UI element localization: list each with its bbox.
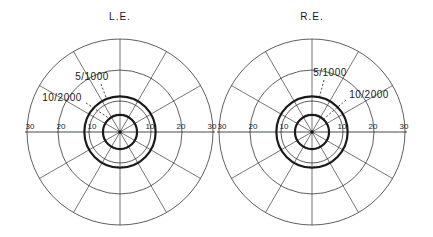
fixation-point	[310, 130, 314, 134]
meridian-210-deg	[231, 132, 312, 179]
tick-label: 20	[249, 122, 258, 131]
meridian-240-deg	[74, 132, 121, 213]
isopter-label: 10/2000	[42, 92, 82, 103]
meridian-150-deg	[231, 86, 312, 133]
eye-title: L.E.	[109, 11, 131, 22]
leader-line	[323, 100, 346, 119]
isopter-label: 5/1000	[313, 67, 347, 78]
right-eye-field: R.E.3020101020305/100010/2000	[217, 11, 409, 225]
meridian-210-deg	[39, 132, 120, 179]
tick-label: 20	[369, 122, 378, 131]
meridian-330-deg	[120, 132, 201, 179]
meridian-30-deg	[120, 86, 201, 133]
isopter-label: 10/2000	[349, 89, 389, 100]
tick-label: 20	[177, 122, 186, 131]
leader-line	[319, 80, 324, 97]
meridian-60-deg	[120, 51, 167, 132]
tick-label: 30	[400, 122, 409, 131]
tick-label: 30	[208, 122, 217, 131]
meridian-240-deg	[266, 132, 313, 213]
meridian-300-deg	[312, 132, 359, 213]
tick-label: 10	[88, 122, 97, 131]
tick-label: 20	[57, 122, 66, 131]
tick-label: 30	[26, 122, 35, 131]
meridian-120-deg	[266, 51, 313, 132]
meridian-330-deg	[312, 132, 393, 179]
fixation-point	[118, 130, 122, 134]
tick-label: 10	[280, 122, 289, 131]
eye-title: R.E.	[300, 11, 323, 22]
visual-field-diagram: L.E.3020101020305/100010/2000 R.E.302010…	[0, 0, 433, 237]
tick-label: 30	[218, 122, 227, 131]
isopter-label: 5/1000	[75, 71, 109, 82]
left-eye-field: L.E.3020101020305/100010/2000	[25, 11, 217, 225]
leader-line	[101, 84, 107, 99]
meridian-300-deg	[120, 132, 167, 213]
